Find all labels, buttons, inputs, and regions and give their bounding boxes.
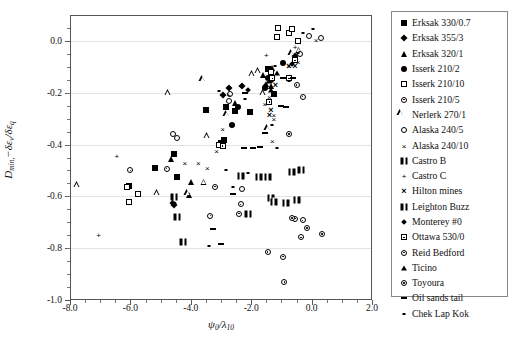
data-point	[257, 146, 263, 148]
legend-label: Isserk 210/5	[412, 94, 460, 105]
data-point	[264, 173, 271, 180]
data-point	[300, 217, 306, 223]
legend-item-chek-lap-kok[interactable]: Chek Lap Kok	[396, 306, 505, 321]
legend-label: Leighton Buzz	[412, 201, 469, 212]
x-tick-minor	[206, 300, 207, 303]
legend-item-erksak-330-0-7[interactable]: Erksak 330/0.7	[396, 15, 505, 30]
legend-item-isserk-210-5[interactable]: Isserk 210/5	[396, 91, 505, 106]
y-tick-label: -0.4	[47, 140, 62, 150]
data-point	[274, 65, 277, 67]
data-point	[271, 124, 274, 126]
x-tick-minor	[176, 300, 177, 303]
legend-label: Hilton mines	[412, 185, 462, 196]
legend-item-monterey-0[interactable]: Monterey #0	[396, 214, 505, 229]
legend-item-leighton-buzz[interactable]: Leighton Buzz	[396, 199, 505, 214]
data-point	[210, 228, 216, 230]
data-point	[289, 215, 295, 221]
data-point	[245, 211, 252, 218]
y-tick-minor	[67, 261, 70, 262]
legend-item-reid-bedford[interactable]: Reid Bedford	[396, 244, 505, 259]
chart-root: Dmin,−δεv/δεq ψ0/λ10 0.0-0.2-0.4-0.6-0.8…	[0, 0, 516, 350]
data-point: ×	[194, 158, 203, 167]
legend-item-alaska-240-5[interactable]: Alaska 240/5	[396, 122, 505, 137]
y-tick-minor	[67, 209, 70, 210]
legend-item-alaska-240-10[interactable]: ×Alaska 240/10	[396, 137, 505, 152]
data-point	[281, 279, 287, 285]
chart-legend[interactable]: Erksak 330/0.7Erksak 355/3Erksak 320/1Is…	[391, 11, 508, 297]
legend-marker-icon	[396, 230, 412, 243]
data-point	[312, 28, 315, 30]
data-point	[224, 169, 227, 171]
data-point	[287, 80, 290, 82]
data-point	[282, 200, 289, 207]
y-tick-label: -1.0	[47, 295, 62, 305]
legend-item-ticino[interactable]: Ticino	[396, 260, 505, 275]
y-tick-minor	[67, 287, 70, 288]
data-point	[165, 89, 178, 101]
legend-item-hilton-mines[interactable]: ×Hilton mines	[396, 183, 505, 198]
data-point	[297, 52, 300, 54]
data-point	[275, 147, 278, 149]
legend-marker-icon	[396, 215, 412, 228]
x-tick-minor	[161, 300, 162, 303]
data-point	[171, 193, 178, 200]
data-point	[184, 189, 197, 201]
data-point: ×	[203, 163, 212, 172]
y-tick-label: -0.2	[47, 88, 62, 98]
data-point: +	[112, 152, 121, 161]
legend-marker-icon	[396, 108, 412, 121]
legend-marker-icon: ×	[396, 184, 412, 197]
legend-label: Monterey #0	[412, 216, 462, 227]
data-point: +	[224, 91, 233, 100]
data-point	[286, 131, 292, 137]
data-point	[298, 166, 305, 173]
data-point	[250, 147, 256, 149]
legend-label: Ticino	[412, 262, 437, 273]
legend-item-erksak-355-3[interactable]: Erksak 355/3	[396, 30, 505, 45]
y-tick-minor	[67, 274, 70, 275]
legend-marker-icon	[396, 261, 412, 274]
data-point	[124, 184, 130, 190]
data-point	[270, 199, 277, 206]
legend-label: Erksak 355/3	[412, 32, 463, 43]
data-point	[220, 143, 226, 149]
data-point	[247, 172, 250, 174]
data-point	[274, 71, 280, 76]
x-tick-mark	[251, 300, 252, 305]
data-point	[304, 225, 310, 231]
y-tick-minor	[67, 106, 70, 107]
y-tick-minor	[67, 222, 70, 223]
x-tick-minor	[85, 300, 86, 303]
legend-marker-icon	[396, 276, 412, 289]
legend-item-nerlerk-270-1[interactable]: Nerlerk 270/1	[396, 107, 505, 122]
data-point	[255, 173, 262, 180]
data-point	[164, 166, 170, 172]
legend-item-oil-sands-tail[interactable]: Oil sands tail	[396, 290, 505, 305]
data-point: ×	[268, 136, 277, 145]
y-tick-minor	[67, 119, 70, 120]
x-tick-minor	[281, 300, 282, 303]
data-point	[275, 25, 281, 31]
data-point	[180, 238, 187, 245]
x-tick-minor	[327, 300, 328, 303]
legend-label: Erksak 320/1	[412, 48, 463, 59]
legend-item-isserk-210-2[interactable]: Isserk 210/2	[396, 61, 505, 76]
legend-label: Nerlerk 270/1	[412, 109, 466, 120]
legend-label: Erksak 330/0.7	[412, 17, 471, 28]
data-point	[207, 213, 213, 219]
legend-marker-icon: ×	[396, 139, 412, 152]
legend-item-castro-c[interactable]: +Castro C	[396, 168, 505, 183]
legend-marker-icon	[396, 47, 412, 60]
legend-label: Ottawa 530/0	[412, 231, 464, 242]
y-tick-minor	[67, 80, 70, 81]
data-point	[274, 34, 280, 40]
legend-item-isserk-210-10[interactable]: Isserk 210/10	[396, 76, 505, 91]
legend-item-toyoura[interactable]: Toyoura	[396, 275, 505, 290]
x-tick-minor	[236, 300, 237, 303]
gridline	[71, 41, 371, 42]
legend-label: Castro C	[412, 170, 446, 181]
legend-item-ottawa-530-0[interactable]: Ottawa 530/0	[396, 229, 505, 244]
legend-marker-icon	[396, 77, 412, 90]
legend-item-castro-b[interactable]: Castro B	[396, 153, 505, 168]
legend-item-erksak-320-1[interactable]: Erksak 320/1	[396, 46, 505, 61]
